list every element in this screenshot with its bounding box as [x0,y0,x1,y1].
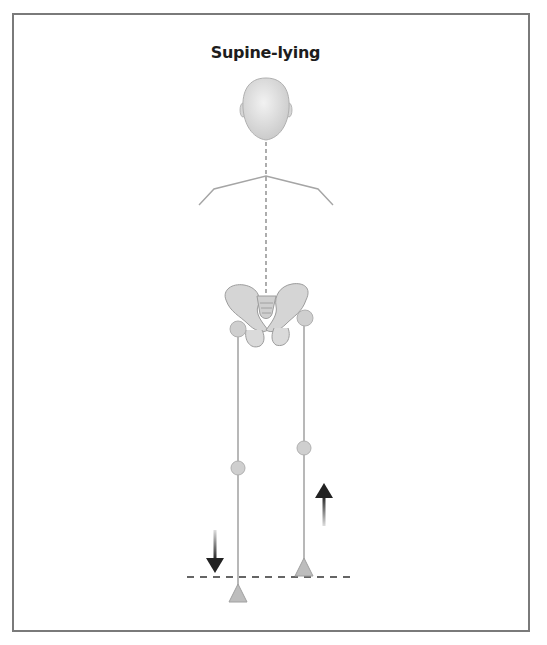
left-foot-triangle [229,584,247,602]
right-hip-joint [297,310,313,326]
right-knee-joint [297,441,311,455]
left-hip-joint [230,321,246,337]
head-illustration [240,78,292,140]
left-knee-joint [231,461,245,475]
up-arrow-icon [315,483,333,526]
down-arrow-icon [206,530,224,573]
right-foot-triangle [295,558,313,576]
leg-length-diagram [0,0,547,645]
